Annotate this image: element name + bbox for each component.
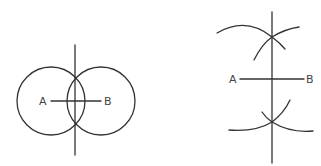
label-point-a: A [39, 95, 47, 108]
construction-figure: A B A B [0, 0, 321, 166]
upper-arc-from-a [217, 25, 285, 49]
right-construction: A B [217, 12, 314, 163]
lower-arc-from-a [262, 112, 313, 131]
label-point-a: A [229, 73, 237, 86]
lower-arc-from-b [229, 100, 290, 130]
label-point-b: B [104, 95, 112, 108]
upper-arc-from-b [254, 27, 299, 60]
label-point-b: B [306, 73, 314, 86]
left-construction: A B [17, 45, 135, 155]
